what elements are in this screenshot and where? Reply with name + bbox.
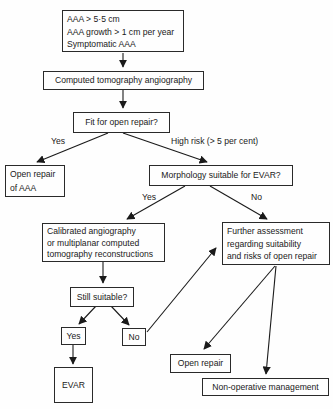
node-open-repair-of-aaa-line: Open repair <box>10 168 60 182</box>
flowchart-arrows <box>0 0 333 409</box>
node-morphology-suitable: Morphology suitable for EVAR? <box>149 165 293 186</box>
node-criteria-line: AAA growth > 1 cm per year <box>67 26 179 39</box>
node-fit-for-open-repair: Fit for open repair? <box>73 112 170 133</box>
edge-label-high-risk: High risk (> 5 per cent) <box>171 136 258 146</box>
node-evar: EVAR <box>54 367 93 403</box>
node-criteria: AAA > 5·5 cm AAA growth > 1 cm per year … <box>62 10 184 52</box>
node-calibrated-angiography: Calibrated angiography or multiplanar co… <box>42 223 165 262</box>
node-further-assessment-line: regarding suitability <box>227 238 325 251</box>
node-no: No <box>122 328 146 346</box>
node-open-repair-of-aaa: Open repair of AAA <box>5 165 65 197</box>
node-open-repair-of-aaa-line: of AAA <box>10 182 60 196</box>
flowchart-canvas: AAA > 5·5 cm AAA growth > 1 cm per year … <box>0 0 333 409</box>
node-still-suitable: Still suitable? <box>70 287 134 307</box>
edge-label-fit-yes: Yes <box>51 136 65 146</box>
node-calibrated-angiography-line: tomography reconstructions <box>47 249 160 261</box>
node-further-assessment-line: Further assessment <box>227 225 325 238</box>
node-open-repair: Open repair <box>170 354 231 373</box>
node-ct-angiography: Computed tomography angiography <box>43 71 204 90</box>
node-criteria-line: Symptomatic AAA <box>67 38 179 51</box>
node-criteria-line: AAA > 5·5 cm <box>67 13 179 26</box>
node-calibrated-angiography-line: or multiplanar computed <box>47 238 160 250</box>
node-further-assessment-line: and risks of open repair <box>227 250 325 263</box>
node-further-assessment: Further assessment regarding suitability… <box>222 222 330 265</box>
node-non-operative-management: Non-operative management <box>202 378 329 396</box>
node-calibrated-angiography-line: Calibrated angiography <box>47 226 160 238</box>
edge-label-morph-no: No <box>251 192 262 202</box>
node-yes: Yes <box>61 327 86 345</box>
edge-label-morph-yes: Yes <box>142 192 156 202</box>
